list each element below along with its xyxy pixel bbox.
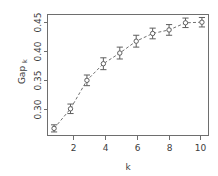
data-point-marker [150, 31, 154, 35]
y-tick-label: 0.40 [33, 41, 43, 61]
data-point-group [150, 28, 156, 39]
data-point-marker [118, 51, 122, 55]
chart-canvas: 0.45 0.40 0.35 0.30 2 4 6 8 10 k Gap k [0, 0, 218, 176]
data-point-marker [101, 62, 105, 66]
x-axis-title: k [125, 162, 131, 172]
plot-frame [48, 15, 209, 136]
data-point-marker [68, 107, 72, 111]
y-tick-label: 0.30 [33, 99, 43, 119]
data-point-marker [167, 28, 171, 32]
series-line [54, 22, 202, 128]
data-point-marker [52, 126, 56, 130]
data-point-group [117, 47, 123, 59]
x-tick-label: 6 [135, 143, 141, 153]
data-point-marker [134, 39, 138, 43]
data-point-marker [200, 20, 204, 24]
x-tick-label: 8 [167, 143, 173, 153]
x-tick-label: 4 [103, 143, 109, 153]
data-point-group [100, 58, 106, 70]
y-tick-label: 0.35 [33, 70, 43, 90]
data-point-group [51, 125, 57, 132]
data-point-group [182, 18, 188, 27]
data-point-group [133, 35, 139, 47]
data-series-layer [51, 17, 205, 131]
y-axis-title-subscript: k [21, 59, 29, 63]
data-point-group [166, 25, 172, 36]
data-point-group [199, 17, 205, 26]
x-tick-label: 2 [71, 143, 77, 153]
y-axis-tick-labels: 0.45 0.40 0.35 0.30 [33, 12, 43, 119]
y-axis-ticks [44, 23, 48, 110]
data-point-marker [85, 78, 89, 82]
x-axis-ticks [74, 136, 201, 140]
y-tick-label: 0.45 [33, 12, 43, 32]
y-axis-title: Gap [17, 66, 27, 84]
gap-statistic-plot: 0.45 0.40 0.35 0.30 2 4 6 8 10 k Gap k [0, 0, 218, 176]
x-tick-label: 10 [195, 143, 207, 153]
y-axis-title-group: Gap k [17, 59, 29, 84]
data-point-marker [183, 21, 187, 25]
x-axis-tick-labels: 2 4 6 8 10 [71, 143, 207, 153]
